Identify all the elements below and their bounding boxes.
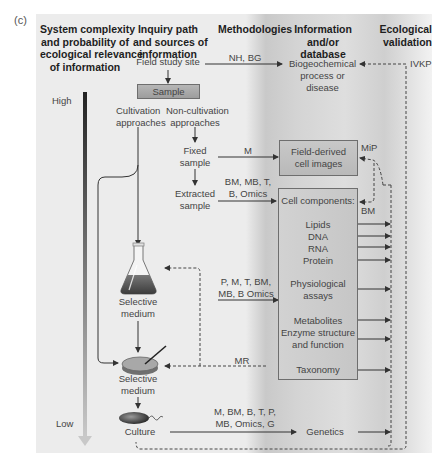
petri-dish-icon — [122, 346, 166, 375]
genetics-label: Genetics — [300, 426, 350, 438]
complexity-scale-arrow — [78, 92, 92, 446]
scale-high-label: High — [52, 95, 72, 107]
validation-bm-label: BM — [361, 205, 375, 217]
enzyme-structure-label: Enzyme structure and function — [279, 327, 357, 351]
selective-medium-plate-label: Selective medium — [118, 373, 158, 397]
cell-components-title: Cell components: — [279, 195, 357, 207]
validation-ivkp-label: IVKP — [410, 58, 432, 70]
fixed-sample-label: Fixed sample — [175, 145, 215, 169]
taxonomy-label: Taxonomy — [279, 364, 357, 376]
field-derived-cell-images-box: Field-derived cell images — [279, 140, 358, 176]
scale-low-label: Low — [56, 418, 73, 430]
method-culture-label: M, BM, B, T, P, MB, Omics, G — [210, 406, 280, 430]
method-flask-label: P, M, T, BM, MB, B Omics — [214, 276, 278, 300]
biogeochemical-label: Biogeochemical process or disease — [285, 58, 360, 94]
cultivation-approaches-label: Cultivation approaches — [116, 105, 160, 129]
method-extracted-label: BM, MB, T, B, Omics — [218, 176, 278, 200]
diagram-connectors — [0, 0, 447, 467]
physiological-assays-label: Physiological assays — [279, 278, 357, 302]
method-field-label: NH, BG — [225, 52, 265, 64]
cell-components-list: Lipids DNA RNA Protein — [279, 219, 357, 267]
field-study-site-label: Field study site — [133, 56, 203, 68]
validation-mip-label: MiP — [361, 142, 377, 154]
sample-box: Sample — [137, 84, 200, 99]
method-fixed-label: M — [238, 145, 258, 157]
flask-icon — [121, 243, 156, 294]
extracted-sample-label: Extracted sample — [170, 188, 220, 212]
non-cultivation-approaches-label: Non-cultivation approaches — [166, 105, 224, 129]
metabolites-label: Metabolites — [279, 315, 357, 327]
cell-components-box: Cell components: Lipids DNA RNA Protein … — [278, 188, 358, 380]
selective-medium-flask-label: Selective medium — [118, 296, 158, 320]
culture-label: Culture — [120, 426, 160, 438]
bacterium-icon — [119, 412, 163, 424]
method-plate-feedback-label: MR — [232, 355, 252, 367]
